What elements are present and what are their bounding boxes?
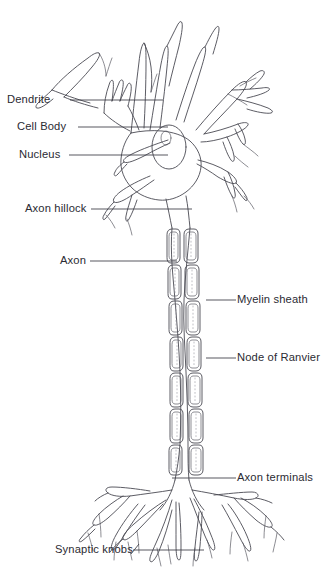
leader-lines <box>69 100 236 554</box>
axon-hillock <box>166 196 190 228</box>
label-synaptic-knobs: Synaptic knobs <box>55 544 133 555</box>
cell-body <box>121 131 201 201</box>
neuron-diagram: Dendrite Cell Body Nucleus Axon hillock … <box>0 0 327 570</box>
label-axon-hillock: Axon hillock <box>25 203 87 214</box>
myelin-segment <box>170 409 203 443</box>
label-axon-terminals: Axon terminals <box>237 472 313 483</box>
label-node-of-ranvier: Node of Ranvier <box>237 352 320 363</box>
label-nucleus: Nucleus <box>19 149 60 160</box>
neuron-drawing <box>0 0 327 570</box>
myelin-segment <box>169 445 203 475</box>
label-cell-body: Cell Body <box>17 121 66 132</box>
label-myelin-sheath: Myelin sheath <box>237 294 308 305</box>
label-dendrite: Dendrite <box>7 94 51 105</box>
label-axon: Axon <box>60 255 86 266</box>
